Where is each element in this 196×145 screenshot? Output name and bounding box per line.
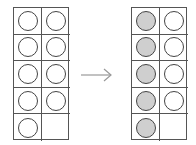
left-ten-frame [13,7,69,140]
frame-cell [160,88,188,115]
frame-cell [42,114,70,141]
empty-counter-icon [164,37,184,57]
empty-counter-icon [46,37,66,57]
empty-counter-icon [164,11,184,31]
empty-counter-icon [18,91,38,111]
filled-counter-icon [136,37,156,57]
empty-counter-icon [18,11,38,31]
frame-cell [132,8,160,35]
right-ten-frame [131,7,187,140]
frame-cell [42,88,70,115]
frame-cell [132,61,160,88]
filled-counter-icon [136,64,156,84]
empty-counter-icon [46,64,66,84]
frame-cell [14,61,42,88]
filled-counter-icon [136,91,156,111]
arrow-right-icon [81,68,113,82]
frame-cell [14,114,42,141]
frame-cell [14,88,42,115]
frame-cell [160,8,188,35]
empty-counter-icon [18,118,38,138]
frame-cell [132,114,160,141]
frame-cell [14,8,42,35]
empty-counter-icon [164,91,184,111]
filled-counter-icon [136,11,156,31]
frame-cell [42,61,70,88]
empty-counter-icon [164,64,184,84]
filled-counter-icon [136,118,156,138]
frame-cell [14,35,42,62]
frame-cell [42,35,70,62]
frame-cell [132,88,160,115]
frame-cell [160,35,188,62]
empty-counter-icon [18,64,38,84]
empty-counter-icon [18,37,38,57]
empty-counter-icon [46,11,66,31]
frame-cell [160,61,188,88]
empty-counter-icon [46,91,66,111]
frame-cell [132,35,160,62]
frame-cell [42,8,70,35]
frame-cell [160,114,188,141]
